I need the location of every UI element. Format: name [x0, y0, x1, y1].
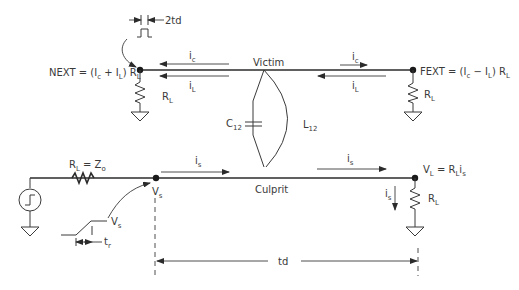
far-il-label: iL	[352, 80, 359, 94]
far-resistor	[408, 70, 418, 112]
pulse-width-label: 2td	[165, 15, 182, 26]
is-label-3: is	[385, 188, 392, 202]
far-resistor-label: RL	[424, 89, 435, 103]
vs-pointer-arrow	[108, 183, 150, 218]
far-ic-label: ic	[352, 51, 359, 65]
vs-ramp-waveform	[61, 221, 107, 235]
vs-node	[153, 175, 159, 181]
vs-waveform-label: Vs	[111, 216, 122, 230]
vs-node-label: Vs	[152, 186, 163, 200]
rise-time-label: tr	[104, 236, 111, 250]
victim-label: Victim	[253, 57, 284, 68]
load-ground-icon	[406, 227, 424, 236]
crosstalk-diagram: Victim NEXT = (Ic + IL) RL FEXT = (Ic − …	[0, 0, 519, 290]
is-label-2: is	[347, 153, 354, 167]
near-il-label: iL	[189, 80, 196, 94]
load-resistor	[410, 178, 420, 227]
inductive-coupling-path	[264, 70, 288, 167]
source-ground-icon	[21, 227, 39, 236]
step-glyph-icon	[25, 195, 35, 205]
near-ic-label: ic	[189, 50, 196, 64]
source-resistor-label: RL = Zo	[69, 159, 106, 173]
near-resistor-label: RL	[162, 91, 173, 105]
next-label: NEXT = (Ic + IL) RL	[49, 67, 141, 81]
inductance-label: L12	[303, 119, 318, 133]
near-ground-icon	[131, 112, 149, 121]
delay-label: td	[278, 256, 288, 267]
capacitance-label: C12	[226, 118, 242, 132]
next-pulse-waveform	[137, 29, 152, 37]
load-resistor-label: RL	[428, 193, 439, 207]
culprit-label: Culprit	[255, 184, 288, 195]
capacitive-coupling-path	[253, 70, 264, 167]
vl-node-label: VL = RLis	[423, 164, 466, 178]
fext-label: FEXT = (Ic − IL) RL	[420, 66, 510, 80]
pulse-pointer-arrow	[122, 39, 136, 67]
far-ground-icon	[404, 112, 422, 121]
is-label-1: is	[195, 155, 202, 169]
